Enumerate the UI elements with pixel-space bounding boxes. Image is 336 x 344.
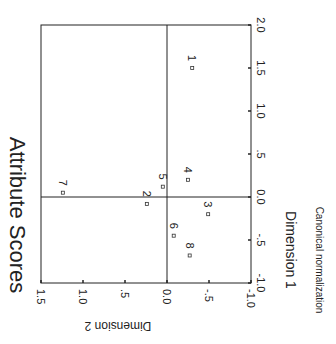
y-axis-label: Dimension 2 <box>84 319 151 333</box>
x-tick-label: -.5 <box>255 234 267 247</box>
y-tick-label: 0.0 <box>161 289 173 304</box>
point-label: 6 <box>168 223 180 229</box>
y-tick-label: .5 <box>119 289 131 298</box>
data-point <box>207 213 210 216</box>
y-tick-label: -.5 <box>203 289 215 302</box>
plot-frame <box>41 25 251 283</box>
x-tick-label: 2.0 <box>255 17 267 32</box>
chart-title: Attribute Scores <box>5 137 30 294</box>
footnote: Canonical normalization <box>314 207 325 314</box>
point-label: 1 <box>186 55 198 61</box>
y-tick-label: 1.0 <box>77 289 89 304</box>
x-tick-label: 0.0 <box>255 189 267 204</box>
data-point <box>188 254 191 257</box>
point-label: 2 <box>141 191 153 197</box>
y-tick-label: -1.0 <box>245 289 257 308</box>
data-point <box>61 191 64 194</box>
point-label: 8 <box>184 242 196 248</box>
point-label: 7 <box>57 180 69 186</box>
data-point <box>187 178 190 181</box>
point-label: 5 <box>157 174 169 180</box>
point-label: 4 <box>182 167 194 173</box>
x-tick-label: 1.0 <box>255 103 267 118</box>
data-point <box>191 67 194 70</box>
scatter-chart: -1.0-.50.0.51.01.52.0-1.0-.50.0.51.01.51… <box>0 0 336 344</box>
point-label: 3 <box>202 201 214 207</box>
data-point <box>172 234 175 237</box>
plot-area: -1.0-.50.0.51.01.52.0-1.0-.50.0.51.01.51… <box>35 17 267 308</box>
data-point <box>145 202 148 205</box>
y-tick-label: 1.5 <box>35 289 47 304</box>
x-tick-label: .5 <box>255 149 267 158</box>
x-tick-label: 1.5 <box>255 60 267 75</box>
x-axis-label: Dimension 1 <box>283 211 299 289</box>
data-point <box>161 185 164 188</box>
